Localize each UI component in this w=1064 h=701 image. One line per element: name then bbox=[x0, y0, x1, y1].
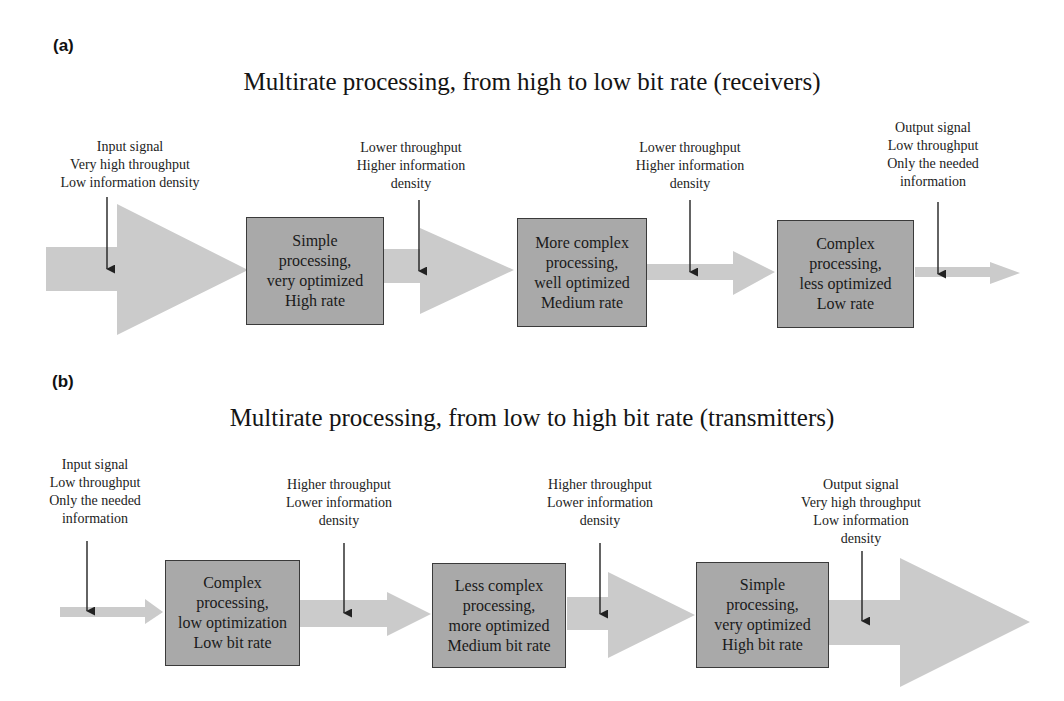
note-line: Low information bbox=[801, 512, 921, 530]
box-line: More complex bbox=[535, 233, 629, 253]
box-line: processing, bbox=[726, 595, 798, 615]
box-line: processing, bbox=[546, 253, 618, 273]
note-line: density bbox=[636, 175, 744, 193]
box-line: processing, bbox=[809, 254, 881, 274]
box-line: Medium rate bbox=[541, 293, 623, 313]
panel-a-note-stage1: Lower throughput Higher information dens… bbox=[357, 139, 465, 193]
box-line: Complex bbox=[203, 573, 262, 593]
box-line: Less complex bbox=[455, 576, 543, 596]
flow-arrow-b2 bbox=[300, 592, 431, 636]
panel-a-label: (a) bbox=[53, 36, 74, 56]
note-line: Higher information bbox=[636, 157, 744, 175]
box-line: processing, bbox=[196, 593, 268, 613]
panel-a-box-more-complex: More complex processing, well optimized … bbox=[517, 218, 647, 327]
note-line: Output signal bbox=[887, 119, 979, 137]
note-line: Low throughput bbox=[49, 474, 141, 492]
note-line: Lower information bbox=[286, 494, 392, 512]
panel-b-note-stage2: Higher throughput Lower information dens… bbox=[547, 476, 653, 530]
note-line: Output signal bbox=[801, 476, 921, 494]
panel-b-note-output: Output signal Very high throughput Low i… bbox=[801, 476, 921, 548]
note-line: Higher information bbox=[357, 157, 465, 175]
box-line: very optimized bbox=[267, 271, 363, 291]
panel-b-note-input: Input signal Low throughput Only the nee… bbox=[49, 456, 141, 528]
note-line: information bbox=[887, 173, 979, 191]
note-line: Only the needed bbox=[887, 155, 979, 173]
box-line: Low rate bbox=[817, 294, 874, 314]
panel-a-box-simple: Simple processing, very optimized High r… bbox=[246, 217, 384, 325]
note-line: density bbox=[547, 512, 653, 530]
note-line: density bbox=[801, 530, 921, 548]
box-line: less optimized bbox=[800, 274, 892, 294]
note-line: density bbox=[286, 512, 392, 530]
box-line: Low bit rate bbox=[193, 633, 271, 653]
flow-arrow-a4 bbox=[915, 262, 1020, 284]
panel-a-note-stage2: Lower throughput Higher information dens… bbox=[636, 139, 744, 193]
panel-b-box-less-complex: Less complex processing, more optimized … bbox=[432, 563, 566, 668]
panel-b-title: Multirate processing, from low to high b… bbox=[0, 404, 1064, 432]
panel-b-box-simple: Simple processing, very optimized High b… bbox=[696, 562, 829, 668]
note-line: Lower information bbox=[547, 494, 653, 512]
panel-b-label: (b) bbox=[52, 372, 74, 392]
flow-arrow-b3 bbox=[567, 572, 695, 658]
note-line: Lower throughput bbox=[636, 139, 744, 157]
box-line: Medium bit rate bbox=[447, 636, 550, 656]
flow-arrow-a1 bbox=[46, 204, 248, 335]
box-line: High bit rate bbox=[722, 635, 803, 655]
note-line: Very high throughput bbox=[801, 494, 921, 512]
box-line: well optimized bbox=[534, 273, 630, 293]
flow-arrow-b4 bbox=[828, 558, 1030, 687]
note-line: Low information density bbox=[60, 174, 199, 192]
note-line: Input signal bbox=[60, 138, 199, 156]
box-line: processing, bbox=[463, 596, 535, 616]
box-line: Simple bbox=[740, 575, 785, 595]
panel-b-box-complex: Complex processing, low optimization Low… bbox=[165, 560, 300, 666]
box-line: Simple bbox=[292, 231, 337, 251]
note-line: Higher throughput bbox=[286, 476, 392, 494]
box-line: processing, bbox=[279, 251, 351, 271]
panel-a-note-input: Input signal Very high throughput Low in… bbox=[60, 138, 199, 192]
panel-a-title: Multirate processing, from high to low b… bbox=[0, 68, 1064, 96]
panel-b-note-stage1: Higher throughput Lower information dens… bbox=[286, 476, 392, 530]
box-line: more optimized bbox=[449, 616, 550, 636]
panel-a-note-output: Output signal Low throughput Only the ne… bbox=[887, 119, 979, 191]
flow-arrow-a3 bbox=[647, 251, 775, 295]
flow-arrow-a2 bbox=[383, 228, 514, 314]
box-line: High rate bbox=[285, 291, 345, 311]
box-line: Complex bbox=[816, 234, 875, 254]
note-line: Low throughput bbox=[887, 137, 979, 155]
note-line: Only the needed bbox=[49, 492, 141, 510]
box-line: very optimized bbox=[714, 615, 810, 635]
note-line: density bbox=[357, 175, 465, 193]
note-line: Input signal bbox=[49, 456, 141, 474]
flow-arrow-b1 bbox=[60, 599, 163, 624]
note-line: Higher throughput bbox=[547, 476, 653, 494]
box-line: low optimization bbox=[178, 613, 287, 633]
note-line: Lower throughput bbox=[357, 139, 465, 157]
note-line: Very high throughput bbox=[60, 156, 199, 174]
note-line: information bbox=[49, 510, 141, 528]
panel-a-box-complex: Complex processing, less optimized Low r… bbox=[777, 220, 914, 328]
